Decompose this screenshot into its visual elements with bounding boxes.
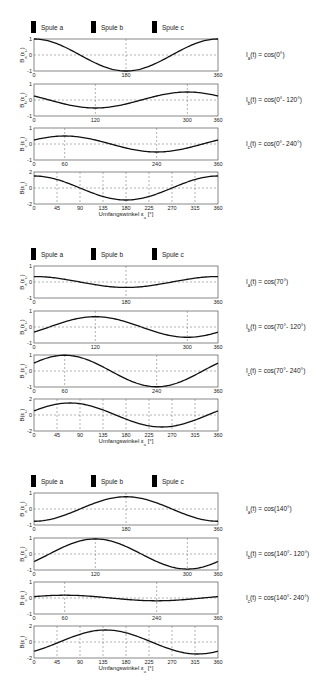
x-tick-label: 360	[213, 659, 222, 665]
x-tick-label: 360	[213, 344, 222, 350]
x-tick-label: 315	[190, 659, 199, 665]
x-tick-label: 315	[190, 432, 199, 438]
subplot-3: 06024036010-1Bc(εu)Ic(t) = cos(70°- 240°…	[19, 352, 305, 394]
subplot-1: 018036010-1Ba(εu)Ia(t) = cos(70°)	[19, 263, 288, 305]
y-tick-label: -1	[27, 567, 32, 573]
x-tick-label: 90	[77, 659, 83, 665]
x-tick-label: 360	[213, 388, 222, 394]
x-tick-label: 90	[77, 205, 83, 211]
x-tick-label: 240	[152, 161, 161, 167]
y-tick-label: -1	[27, 384, 32, 390]
x-tick-label: 360	[213, 571, 222, 577]
y-tick-label: -1	[27, 157, 32, 163]
legend-label: Spule c	[162, 251, 184, 259]
y-tick-label: -2	[27, 428, 32, 434]
y-tick-label: 1	[29, 352, 32, 358]
legend-swatch	[31, 248, 36, 260]
current-formula: Ib(t) = cos(0°- 120°)	[246, 96, 302, 106]
y-tick-label: 1	[29, 81, 32, 87]
x-tick-label: 120	[91, 117, 100, 123]
legend-label: Spule c	[162, 24, 184, 32]
x-tick-label: 180	[121, 299, 130, 305]
y-tick-label: -1	[27, 611, 32, 617]
y-tick-label: 0	[29, 141, 32, 147]
legend-swatch	[31, 21, 36, 33]
subplot-3: 06024036010-1Bc(εu)Ic(t) = cos(0°- 240°)	[19, 125, 302, 167]
x-axis-label: Umfangswinkel εu [°]	[99, 665, 154, 674]
y-tick-label: 0	[29, 185, 32, 191]
y-tick-label: 1	[29, 535, 32, 541]
y-tick-label: 1	[29, 579, 32, 585]
y-axis-label: B(εu)	[19, 181, 28, 194]
x-tick-label: 240	[152, 615, 161, 621]
x-tick-label: 360	[213, 117, 222, 123]
current-formula: Ic(t) = cos(70°- 240°)	[246, 367, 305, 377]
x-tick-label: 60	[62, 161, 68, 167]
y-tick-label: 0	[29, 639, 32, 645]
x-tick-label: 360	[213, 299, 222, 305]
x-tick-label: 270	[167, 432, 176, 438]
x-tick-label: 300	[183, 117, 192, 123]
y-tick-label: -1	[27, 522, 32, 528]
y-tick-label: 0	[29, 52, 32, 58]
y-tick-label: 0	[29, 97, 32, 103]
y-tick-label: 2	[29, 169, 32, 175]
x-tick-label: 360	[213, 526, 222, 532]
x-tick-label: 45	[54, 432, 60, 438]
x-tick-label: 45	[54, 205, 60, 211]
y-tick-label: 1	[29, 490, 32, 496]
y-tick-label: 1	[29, 125, 32, 131]
x-tick-label: 360	[213, 432, 222, 438]
y-axis-label: Bb(εu)	[19, 319, 28, 334]
y-tick-label: 0	[29, 368, 32, 374]
current-formula: Ic(t) = cos(0°- 240°)	[246, 140, 302, 150]
x-tick-label: 0	[32, 344, 35, 350]
y-tick-label: 2	[29, 396, 32, 402]
y-tick-label: 0	[29, 595, 32, 601]
subplot-2: 012030036010-1Bb(εu)Ib(t) = cos(70°- 120…	[19, 308, 306, 350]
figure: Spule aSpule bSpule c018036010-1Ba(εu)Ia…	[0, 0, 326, 690]
x-tick-label: 0	[32, 571, 35, 577]
x-tick-label: 360	[213, 161, 222, 167]
current-formula: Ib(t) = cos(140°- 120°)	[246, 550, 309, 560]
x-tick-label: 120	[91, 571, 100, 577]
y-tick-label: 2	[29, 623, 32, 629]
current-formula: Ia(t) = cos(70°)	[246, 278, 288, 288]
y-axis-label: Bc(εu)	[19, 363, 28, 378]
x-tick-label: 0	[32, 432, 35, 438]
x-tick-label: 90	[77, 432, 83, 438]
subplot-4: 0459013518022527031536020-2B(εu)Umfangsw…	[19, 623, 223, 674]
y-axis-label: Bc(εu)	[19, 590, 28, 605]
legend-swatch	[91, 248, 96, 260]
y-tick-label: 1	[29, 308, 32, 314]
x-tick-label: 0	[32, 117, 35, 123]
x-tick-label: 60	[62, 615, 68, 621]
chart-block-2: Spule aSpule bSpule c018036010-1Ba(εu)Ia…	[19, 248, 306, 447]
legend-label: Spule b	[101, 251, 123, 259]
y-tick-label: 0	[29, 506, 32, 512]
y-axis-label: Bc(εu)	[19, 136, 28, 151]
x-tick-label: 180	[121, 526, 130, 532]
current-formula: Ic(t) = cos(140°- 240°)	[246, 594, 309, 604]
y-axis-label: B(εu)	[19, 408, 28, 421]
current-formula: Ia(t) = cos(140°)	[246, 505, 292, 515]
y-tick-label: -1	[27, 295, 32, 301]
x-tick-label: 240	[152, 388, 161, 394]
y-axis-label: Ba(εu)	[19, 501, 28, 516]
x-tick-label: 360	[213, 205, 222, 211]
subplot-1: 018036010-1Ba(εu)Ia(t) = cos(140°)	[19, 490, 292, 532]
current-formula: Ib(t) = cos(70°- 120°)	[246, 323, 306, 333]
y-tick-label: -1	[27, 68, 32, 74]
x-tick-label: 360	[213, 72, 222, 78]
x-tick-label: 0	[32, 659, 35, 665]
legend-swatch	[91, 475, 96, 487]
y-tick-label: -1	[27, 113, 32, 119]
x-tick-label: 0	[32, 205, 35, 211]
y-tick-label: -2	[27, 655, 32, 661]
y-tick-label: 1	[29, 36, 32, 42]
chart-block-3: Spule aSpule bSpule c018036010-1Ba(εu)Ia…	[19, 475, 309, 674]
y-axis-label: Ba(εu)	[19, 274, 28, 289]
x-tick-label: 180	[121, 72, 130, 78]
x-tick-label: 300	[183, 571, 192, 577]
subplot-4: 0459013518022527031536020-2B(εu)Umfangsw…	[19, 169, 223, 220]
